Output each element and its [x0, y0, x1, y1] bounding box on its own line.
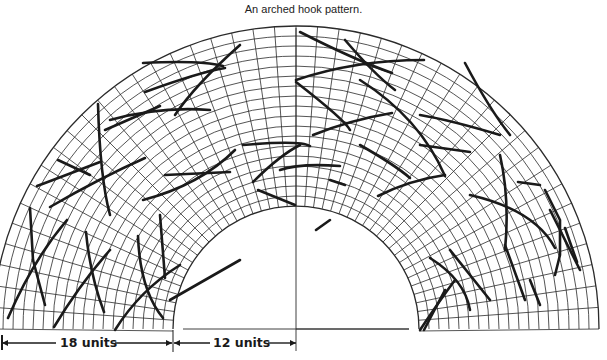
radial-grid-lines	[0, 26, 599, 331]
arched-hook-pattern-diagram: 18 units 12 units	[0, 0, 607, 360]
concentric-grid-arcs	[0, 26, 599, 329]
dimension-label-12-units: 12 units	[213, 335, 270, 350]
center-axis-line	[183, 28, 409, 351]
dimension-label-18-units: 18 units	[60, 335, 117, 350]
